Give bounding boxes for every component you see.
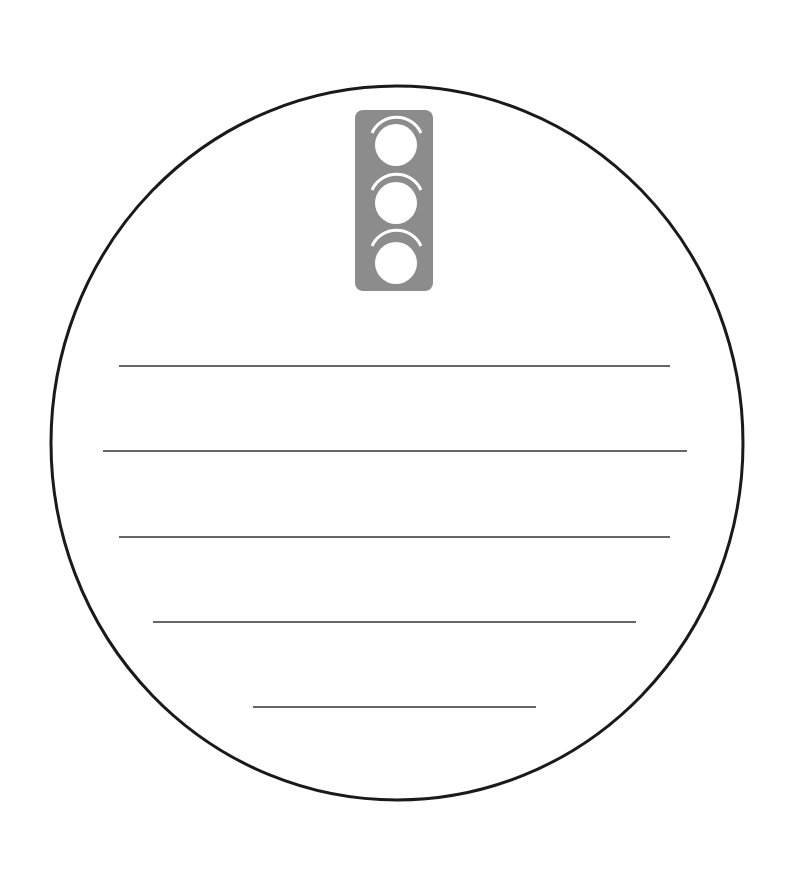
- traffic-light-icon: [355, 110, 433, 291]
- worksheet-canvas: [0, 0, 791, 877]
